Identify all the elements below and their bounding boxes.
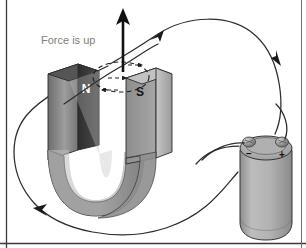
current-arrow-top-left: [150, 30, 164, 42]
diagram-canvas: N S Force is up: [0, 0, 306, 248]
current-arrow-top-right: [271, 50, 281, 66]
south-pole-label: S: [136, 85, 144, 99]
horseshoe-magnet: N S: [48, 64, 172, 218]
force-label: Force is up: [41, 34, 95, 46]
battery: − +: [240, 136, 292, 240]
magnetism-diagram: N S Force is up: [0, 0, 306, 248]
current-arrow-bottom-left: [33, 204, 47, 216]
positive-terminal-symbol: +: [279, 149, 285, 160]
negative-terminal-symbol: −: [246, 148, 252, 159]
